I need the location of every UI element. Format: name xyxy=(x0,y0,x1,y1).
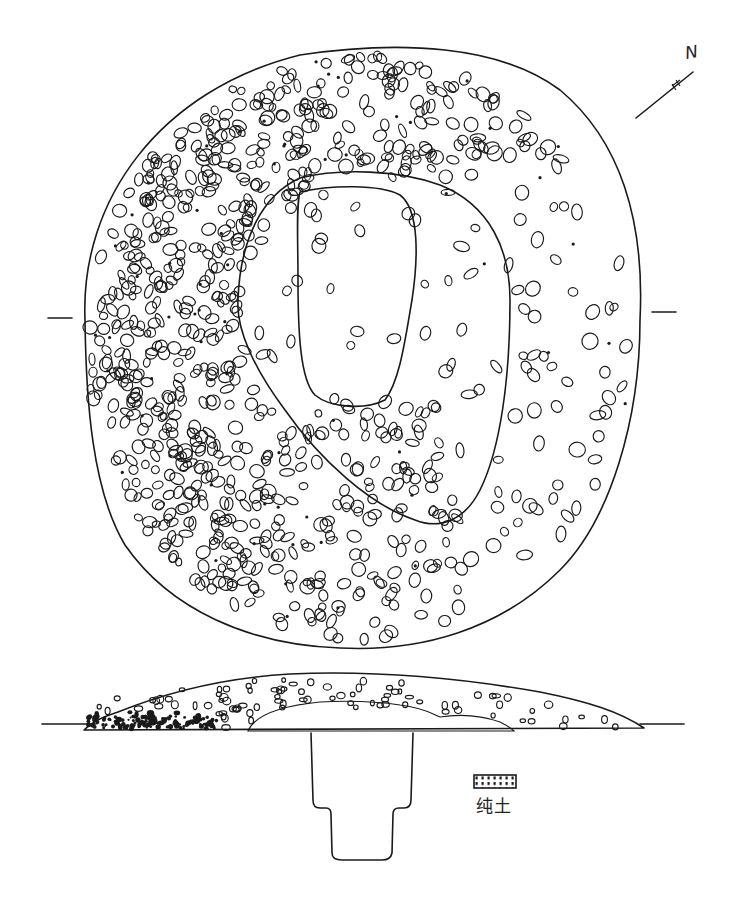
tumulus-drawing xyxy=(0,0,736,900)
middle-ring-boundary xyxy=(238,172,510,524)
legend-label-pure-soil: 纯土 xyxy=(476,792,512,817)
inner-pit-boundary xyxy=(298,187,417,407)
north-arrow-icon xyxy=(636,72,693,118)
pit-shaft-outline xyxy=(311,733,413,860)
pure-soil-layer xyxy=(248,701,514,731)
legend-hatched-box-icon xyxy=(474,775,516,788)
plan-stones xyxy=(82,50,635,645)
section-view xyxy=(42,673,684,860)
